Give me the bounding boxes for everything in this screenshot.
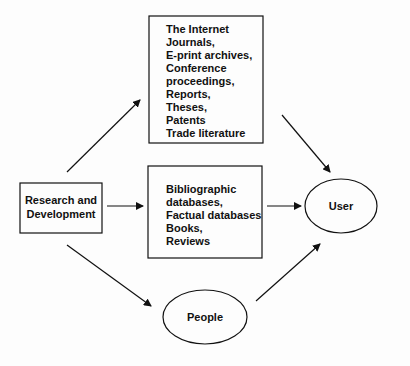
secondary-sources-item: Books, [166, 222, 203, 234]
secondary-sources-item: databases, [166, 196, 223, 208]
node-primary-sources: The Internet Journals, E-print archives,… [149, 16, 263, 143]
primary-sources-item: Journals, [166, 36, 215, 48]
primary-sources-item: proceedings, [166, 75, 234, 87]
secondary-sources-item: Factual databases [166, 209, 261, 221]
arrow-research-to-primary-sources [67, 100, 140, 172]
primary-sources-item: Conference [166, 62, 227, 74]
arrow-primary-sources-to-user [282, 115, 330, 172]
arrow-research-to-people [67, 245, 151, 306]
primary-sources-item: Theses, [166, 101, 207, 113]
people-label: People [187, 311, 223, 323]
flow-diagram: Research and Development The Internet Jo… [0, 0, 410, 366]
primary-sources-item: Reports, [166, 88, 211, 100]
research-label-line-1: Research and [25, 194, 97, 206]
node-research-and-development: Research and Development [20, 183, 102, 233]
research-label-line-2: Development [26, 208, 95, 220]
primary-sources-item: The Internet [166, 23, 229, 35]
secondary-sources-item: Reviews [166, 235, 210, 247]
primary-sources-item: E-print archives, [166, 49, 252, 61]
node-secondary-sources: Bibliographic databases, Factual databas… [148, 166, 262, 258]
primary-sources-item: Patents [166, 114, 206, 126]
diagram-canvas: Research and Development The Internet Jo… [0, 0, 410, 366]
secondary-sources-item: Bibliographic [166, 183, 236, 195]
node-user: User [305, 179, 377, 233]
node-people: People [163, 290, 247, 344]
user-label: User [329, 200, 354, 212]
arrow-people-to-user [256, 244, 320, 301]
primary-sources-item: Trade literature [166, 127, 245, 139]
